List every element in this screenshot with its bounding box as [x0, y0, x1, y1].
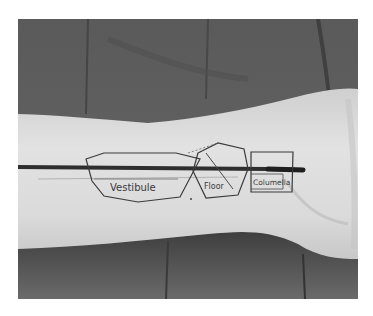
photo: Vestibule Floor Columella [18, 19, 358, 299]
arm-photo-illustration: Vestibule Floor Columella [18, 19, 358, 299]
floor-label: Floor [204, 182, 225, 191]
columella-label: Columella [253, 178, 290, 187]
vestibule-label: Vestibule [110, 182, 156, 193]
